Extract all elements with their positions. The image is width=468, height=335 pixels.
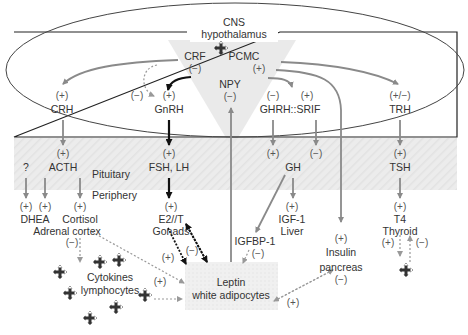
- cytokine-cross-icon: [112, 253, 126, 267]
- gh-sign-minus: (−): [310, 148, 323, 160]
- periphery-label: Periphery: [92, 189, 137, 201]
- dhea-label: DHEA: [20, 213, 49, 225]
- acth-label: ACTH: [49, 161, 78, 173]
- adrenal-label: Adrenal cortex: [33, 225, 101, 237]
- leptin-pancreas-sign: (+): [287, 297, 300, 309]
- cytokine-cross-icon: [53, 265, 67, 279]
- e2t-sign: (+): [165, 201, 178, 213]
- lymphocytes-label: lymphocytes: [81, 284, 139, 296]
- trh-sign: (+/−): [389, 90, 410, 102]
- cns-label: CNS: [223, 16, 245, 28]
- t4-sign: (+): [394, 201, 407, 213]
- acth-sign: (+): [57, 148, 70, 160]
- gonads-label: Gonads: [153, 225, 190, 237]
- white-adipocytes-label: white adipocytes: [192, 289, 270, 301]
- insulin-label: Insulin: [326, 246, 356, 258]
- cortisol-label: Cortisol: [62, 213, 98, 225]
- gonads-in-sign: (+): [162, 252, 175, 264]
- dhea-sign: (+): [39, 201, 52, 213]
- cytokine-cross-icon: [214, 41, 228, 55]
- gnrh-input-sign: (−): [131, 90, 144, 102]
- cortisol-sign: (+): [74, 201, 87, 213]
- gh-label: GH: [285, 161, 301, 173]
- igf1-label: IGF-1: [279, 213, 306, 225]
- unknown-label: ?: [23, 161, 29, 173]
- tsh-sign: (+): [394, 148, 407, 160]
- trh-label: TRH: [389, 103, 411, 115]
- q-sign: (+): [20, 201, 33, 213]
- hypothalamus-label: hypothalamus: [201, 28, 266, 40]
- npy-label: NPY: [219, 78, 241, 90]
- fsh-lh-sign: (+): [163, 148, 176, 160]
- pcmc-sign: (+): [253, 63, 266, 75]
- npy-sign: (−): [224, 91, 237, 103]
- crf-sign: (−): [189, 63, 202, 75]
- crf-label: CRF: [184, 50, 206, 62]
- e2t-label: E2//T: [158, 213, 183, 225]
- crh-sign: (+): [56, 90, 69, 102]
- cytokines-sign: (+): [154, 276, 167, 288]
- ghrh-srif-label: GHRH::SRIF: [260, 103, 321, 115]
- gh-sign-plus: (+): [267, 148, 280, 160]
- pcmc-label: PCMC: [229, 50, 260, 62]
- fsh-lh-label: FSH, LH: [149, 161, 189, 173]
- thyroid-sign-minus: (−): [416, 237, 429, 249]
- pituitary-label: Pituitary: [92, 168, 130, 180]
- cytokine-cross-icon: [93, 255, 107, 269]
- cytokine-cross-icon: [63, 286, 77, 300]
- gnrh-sign: (+): [163, 90, 176, 102]
- ghrh-sign: (−): [267, 90, 280, 102]
- pancreas-sign: (−): [335, 274, 348, 286]
- igf1-sign: (+): [286, 201, 299, 213]
- tsh-label: TSH: [390, 161, 411, 173]
- leptin-label: Leptin: [217, 276, 246, 288]
- srif-sign: (+): [301, 90, 314, 102]
- igfbp1-sign: (−): [252, 248, 265, 260]
- cytokine-cross-icon: [399, 263, 413, 277]
- neuroendocrine-diagram: CNS hypothalamus Pituitary Periphery CRF…: [0, 0, 468, 335]
- pancreas-label: pancreas: [319, 261, 362, 273]
- gonads-out-sign: (−): [186, 245, 199, 257]
- igfbp1-label: IGFBP-1: [235, 235, 276, 247]
- t4-label: T4: [394, 213, 406, 225]
- gnrh-label: GnRH: [154, 103, 183, 115]
- thyroid-label: Thyroid: [382, 225, 417, 237]
- cytokine-cross-icon: [138, 288, 152, 302]
- crh-label: CRH: [51, 103, 74, 115]
- cytokines-label: Cytokines: [87, 271, 133, 283]
- insulin-sign: (+): [335, 233, 348, 245]
- adrenal-sign: (−): [66, 237, 79, 249]
- cytokine-cross-icon: [109, 300, 123, 314]
- liver-label: Liver: [281, 225, 304, 237]
- thyroid-sign-plus: (+): [382, 237, 395, 249]
- cytokine-cross-icon: [83, 311, 97, 325]
